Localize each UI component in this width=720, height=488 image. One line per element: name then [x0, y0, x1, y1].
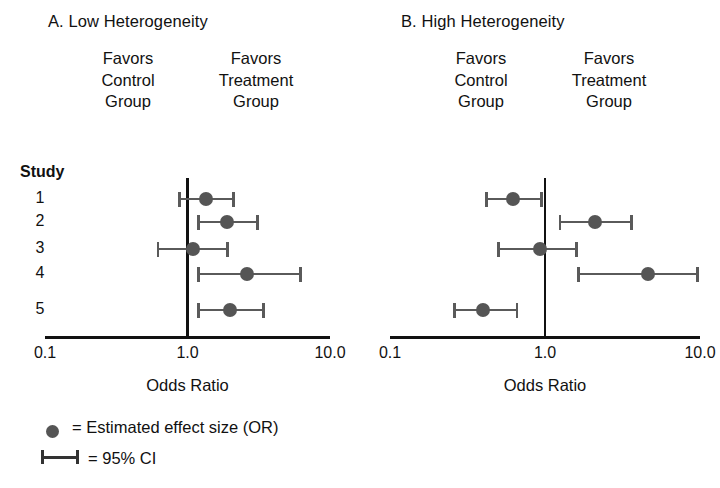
confidence-interval-cap-lower [197, 215, 200, 230]
study-label: 4 [20, 264, 60, 282]
confidence-interval-cap-lower [157, 242, 160, 257]
effect-size-marker [199, 192, 213, 206]
legend-ci-label: = 95% CI [88, 449, 156, 468]
confidence-interval-cap-upper [696, 267, 699, 282]
null-reference-line [186, 178, 189, 336]
effect-size-marker [223, 303, 237, 317]
confidence-interval-cap-lower [497, 242, 500, 257]
effect-size-marker [240, 267, 254, 281]
confidence-interval-cap-upper [232, 192, 235, 207]
x-axis-tick-label: 0.1 [15, 344, 75, 362]
legend-ci-line-icon [41, 456, 79, 459]
confidence-interval-cap-upper [299, 267, 302, 282]
effect-size-marker [186, 242, 200, 256]
null-reference-line [544, 178, 547, 336]
x-axis-line [45, 336, 330, 339]
legend-ci-cap-left-icon [41, 450, 44, 464]
x-axis-title: Odds Ratio [445, 376, 645, 395]
effect-size-marker [588, 215, 602, 229]
confidence-interval-cap-lower [559, 215, 562, 230]
confidence-interval-cap-lower [453, 303, 456, 318]
legend-effect-label: = Estimated effect size (OR) [72, 418, 278, 437]
figure-legend: = Estimated effect size (OR) = 95% CI [0, 400, 706, 488]
x-axis-line [390, 336, 700, 339]
x-axis-tick-label: 10.0 [300, 344, 360, 362]
panel-low-heterogeneity: A. Low Heterogeneity Favors Control Grou… [0, 0, 353, 400]
confidence-interval-cap-upper [540, 192, 543, 207]
confidence-interval-cap-upper [262, 303, 265, 318]
effect-size-marker [476, 303, 490, 317]
confidence-interval-cap-upper [630, 215, 633, 230]
legend-ci-cap-right-icon [76, 450, 79, 464]
effect-size-marker [641, 267, 655, 281]
study-label: 5 [20, 300, 60, 318]
x-axis-title: Odds Ratio [88, 376, 288, 395]
confidence-interval-cap-lower [197, 303, 200, 318]
effect-size-marker [220, 215, 234, 229]
panel-high-heterogeneity: B. High Heterogeneity Favors Control Gro… [353, 0, 706, 400]
x-axis-tick-label: 1.0 [158, 344, 218, 362]
study-label: 3 [20, 239, 60, 257]
legend-effect-marker-icon [46, 425, 59, 438]
confidence-interval-cap-upper [256, 215, 259, 230]
study-label: 1 [20, 189, 60, 207]
x-axis-tick-label: 0.1 [360, 344, 420, 362]
confidence-interval-line [579, 273, 698, 276]
confidence-interval-cap-lower [178, 192, 181, 207]
x-axis-tick-label: 10.0 [670, 344, 720, 362]
confidence-interval-cap-upper [516, 303, 519, 318]
confidence-interval-cap-lower [197, 267, 200, 282]
panel-b-plot: 0.11.010.0Odds Ratio [353, 0, 706, 400]
x-axis-tick-label: 1.0 [515, 344, 575, 362]
effect-size-marker [506, 192, 520, 206]
confidence-interval-cap-upper [226, 242, 229, 257]
confidence-interval-cap-lower [485, 192, 488, 207]
effect-size-marker [533, 242, 547, 256]
confidence-interval-cap-lower [577, 267, 580, 282]
study-label: 2 [20, 212, 60, 230]
confidence-interval-cap-upper [575, 242, 578, 257]
